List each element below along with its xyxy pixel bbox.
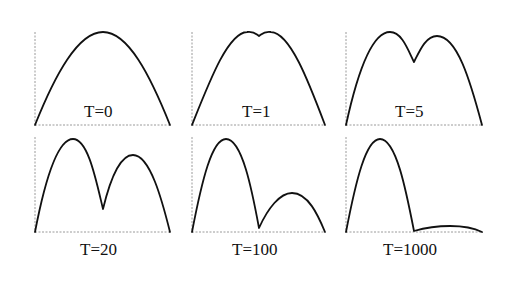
panel-t100: T=100 [192,137,325,259]
panel-label: T=20 [80,240,117,259]
curve [35,139,170,232]
panel-t0: T=0 [35,32,170,125]
panel-label: T=5 [395,102,423,121]
panel-t1000: T=1000 [346,137,482,259]
panel-label: T=100 [232,240,277,259]
panel-label: T=1 [242,102,270,121]
panel-t20: T=20 [35,137,170,259]
evolution-figure: T=0 T=1 T=5 T=20 T=100 T=1000 [0,0,507,283]
panel-t1: T=1 [192,32,325,125]
panel-label: T=1000 [383,240,437,259]
curve [346,139,482,232]
panel-label: T=0 [84,102,112,121]
curve [192,139,325,232]
panel-t5: T=5 [346,32,482,125]
